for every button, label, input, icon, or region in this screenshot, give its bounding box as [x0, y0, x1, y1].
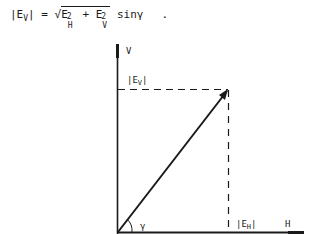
axis-h-label: H — [285, 219, 290, 229]
vector-diagram: V H |EV| |EH| γ — [0, 0, 311, 234]
eh-label: |EH| — [236, 219, 256, 231]
resultant-vector — [118, 91, 227, 232]
ev-label: |EV| — [127, 75, 147, 87]
angle-gamma-label: γ — [140, 221, 145, 231]
axis-v-label: V — [126, 46, 132, 56]
